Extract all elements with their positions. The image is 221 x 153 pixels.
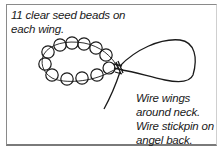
bead-count-caption: 11 clear seed beads on each wing. <box>11 8 125 36</box>
caption-line: 11 clear seed beads on <box>11 8 125 22</box>
caption-line: each wing. <box>11 22 125 36</box>
caption-line: Wire wings <box>136 91 214 105</box>
wiring-instructions-caption: Wire wings around neck. Wire stickpin on… <box>136 91 214 147</box>
caption-line: Wire stickpin on <box>136 119 214 133</box>
caption-line: around neck. <box>136 105 214 119</box>
bead-loop-icon <box>39 37 118 85</box>
caption-line: angel back. <box>136 133 214 147</box>
